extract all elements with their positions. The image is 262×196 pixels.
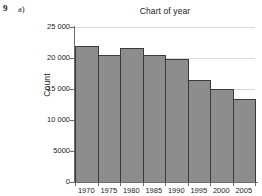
y-axis-line: [74, 26, 75, 183]
y-axis-tick-label: 5000: [26, 147, 70, 155]
y-axis-tick: [70, 58, 75, 59]
bar-2005: [233, 99, 257, 182]
y-axis-tick-label: 20 000: [26, 54, 70, 62]
y-axis-tick: [70, 27, 75, 28]
y-axis-tick-label: 0: [26, 178, 70, 186]
bar-2000: [210, 89, 234, 182]
y-axis-tick: [70, 151, 75, 152]
x-axis-tick-labels: 19701975198019851990199520002005: [75, 186, 255, 195]
x-axis-tick-label: 1980: [120, 186, 143, 195]
x-axis-tick-label: 1995: [188, 186, 211, 195]
x-axis-tick-label: 2005: [233, 186, 256, 195]
y-axis-tick-label-text: 15 000: [30, 85, 70, 93]
bar-chart: Chart of year Count 25 00020 00015 00010…: [0, 0, 262, 196]
y-axis-tick: [70, 89, 75, 90]
x-axis-tick-label: 1985: [143, 186, 166, 195]
x-axis-tick-label: 2000: [210, 186, 233, 195]
chart-title: Chart of year: [75, 6, 255, 16]
y-axis-tick-label: 25 000: [26, 23, 70, 31]
y-axis-tick-label-text: 0: [30, 178, 70, 186]
bar-1970: [75, 46, 99, 182]
y-axis-tick: [70, 120, 75, 121]
y-axis-tick-label: 10 000: [26, 116, 70, 124]
bar-1990: [165, 59, 189, 182]
bar-1985: [143, 55, 167, 182]
y-axis-tick-label-text: 5000: [30, 147, 70, 155]
plot-area: [75, 27, 255, 182]
bar-1975: [98, 55, 122, 182]
y-axis-tick-label-text: 25 000: [30, 23, 70, 31]
x-axis-tick-label: 1975: [98, 186, 121, 195]
bar-1980: [120, 48, 144, 182]
y-axis-tick-label-text: 10 000: [30, 116, 70, 124]
y-axis-tick-label-text: 20 000: [30, 54, 70, 62]
x-axis-tick-label: 1990: [165, 186, 188, 195]
y-axis-tick-label: 15 000: [26, 85, 70, 93]
x-axis-tick-label: 1970: [75, 186, 98, 195]
x-axis-tick: [255, 182, 256, 186]
bar-series: [75, 27, 255, 182]
bar-1995: [188, 80, 212, 182]
